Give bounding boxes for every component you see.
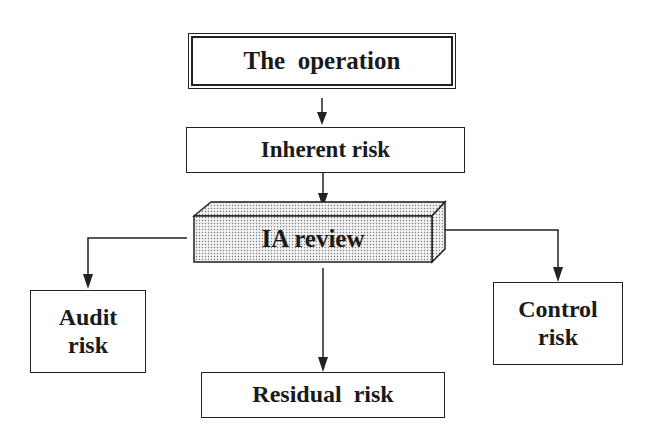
arrow-operation-to-inherent bbox=[317, 98, 327, 125]
arrow-ia-review-to-control bbox=[445, 230, 563, 282]
control-risk-line2: risk bbox=[538, 324, 578, 352]
residual-risk-label: Residual risk bbox=[201, 372, 445, 418]
arrow-ia-review-to-audit bbox=[83, 238, 187, 289]
audit-risk-line2: risk bbox=[68, 332, 108, 360]
audit-risk-label: Audit risk bbox=[30, 290, 146, 373]
control-risk-label: Control risk bbox=[493, 282, 623, 365]
control-risk-line1: Control bbox=[518, 296, 598, 324]
operation-label: The operation bbox=[188, 33, 456, 89]
inherent-risk-label: Inherent risk bbox=[186, 127, 465, 173]
arrow-ia-review-to-residual bbox=[318, 268, 328, 372]
audit-risk-line1: Audit bbox=[59, 304, 118, 332]
ia-review-label: IA review bbox=[194, 216, 432, 262]
